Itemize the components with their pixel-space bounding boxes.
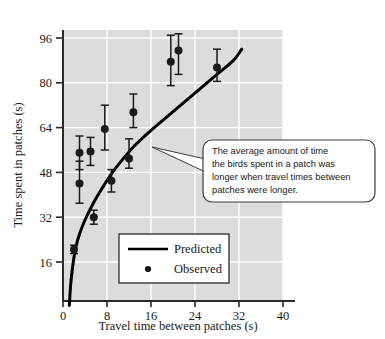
y-axis-tick-labels: 163248648096 (40, 32, 53, 270)
y-tick-label: 80 (40, 76, 53, 90)
callout-line-4: patches were longer. (212, 185, 298, 195)
y-axis-ticks (56, 38, 63, 262)
legend-dot-swatch (145, 266, 151, 272)
x-axis-title: Travel time between patches (s) (98, 319, 257, 333)
callout-line-1: The average amount of time (212, 146, 328, 156)
chart-legend: Predicted Observed (119, 234, 229, 283)
y-tick-label: 96 (40, 32, 53, 46)
callout-line-3: longer when travel times between (212, 172, 351, 182)
x-tick-label: 40 (277, 309, 290, 323)
y-axis-title: Time spent in patches (s) (11, 102, 25, 227)
y-tick-label: 32 (40, 211, 53, 225)
callout-line-2: the birds spent in a patch was (212, 159, 335, 169)
scatter-plot-svg: 0816243240 163248648096 The average amou… (0, 0, 385, 339)
y-tick-label: 64 (40, 121, 53, 135)
y-tick-label: 16 (40, 256, 53, 270)
x-tick-label: 0 (60, 309, 66, 323)
legend-label-predicted: Predicted (174, 242, 222, 256)
y-tick-label: 48 (40, 166, 53, 180)
callout-box: The average amount of time the birds spe… (203, 140, 375, 202)
chart-figure: 0816243240 163248648096 The average amou… (0, 0, 385, 339)
legend-label-observed: Observed (174, 262, 223, 276)
